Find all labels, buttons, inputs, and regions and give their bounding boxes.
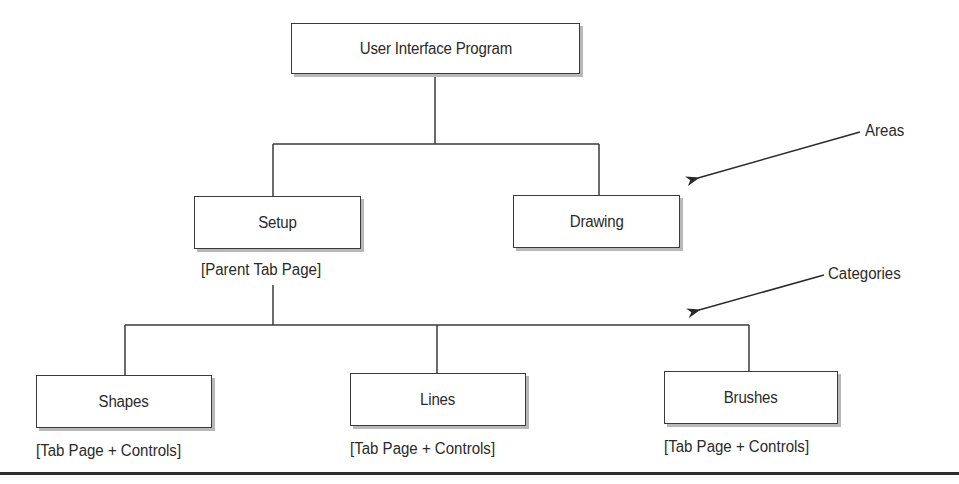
shapes-caption: [Tab Page + Controls]	[36, 441, 181, 461]
areas-annotation: Areas	[865, 121, 904, 141]
categories-annotation: Categories	[828, 264, 901, 284]
setup-node-label: Setup	[258, 214, 296, 232]
shapes-node-label: Shapes	[99, 393, 149, 411]
bottom-divider-rule	[0, 472, 959, 475]
brushes-node: Brushes	[664, 371, 838, 424]
shapes-node: Shapes	[36, 375, 212, 428]
brushes-node-label: Brushes	[724, 389, 778, 407]
brushes-caption: [Tab Page + Controls]	[664, 437, 809, 457]
drawing-node-label: Drawing	[570, 213, 624, 231]
areas-arrow	[698, 132, 860, 178]
categories-arrow	[699, 275, 824, 310]
setup-caption: [Parent Tab Page]	[201, 260, 321, 280]
lines-node-label: Lines	[420, 391, 455, 409]
root-node-label: User Interface Program	[359, 40, 511, 58]
drawing-node: Drawing	[513, 195, 680, 248]
hierarchy-diagram: User Interface Program Setup [Parent Tab…	[0, 0, 959, 484]
root-node: User Interface Program	[291, 23, 580, 74]
lines-node: Lines	[350, 373, 526, 426]
setup-node: Setup	[194, 196, 361, 249]
lines-caption: [Tab Page + Controls]	[350, 439, 495, 459]
